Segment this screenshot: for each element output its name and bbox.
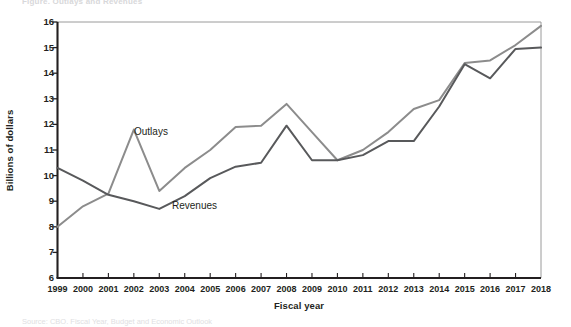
y-axis-tick-label: 12 [20, 119, 54, 129]
x-axis-title: Fiscal year [57, 300, 541, 311]
y-axis-tick-label: 10 [20, 171, 54, 181]
y-axis-tick-label: 11 [20, 145, 54, 155]
series-label-outlays: Outlays [134, 126, 168, 138]
x-axis-tick-labels: 1999200020012002200320042005200620072008… [0, 283, 571, 299]
series-line-revenues [58, 48, 542, 209]
y-axis-tick-label: 15 [20, 43, 54, 53]
series-line-outlays [58, 26, 542, 227]
clipped-source-note: Source: CBO. Fiscal Year, Budget and Eco… [22, 316, 442, 327]
y-axis-tick-labels: 678910111213141516 [16, 0, 54, 325]
y-axis-tick-label: 6 [20, 273, 54, 283]
y-axis-tick-label: 16 [20, 17, 54, 27]
y-axis-tick-label: 14 [20, 68, 54, 78]
y-axis-tick-label: 13 [20, 94, 54, 104]
y-axis-tick-label: 8 [20, 222, 54, 232]
series-label-revenues: Revenues [172, 200, 217, 212]
x-axis-tick-label: 2018 [521, 283, 561, 295]
y-axis-tick-label: 9 [20, 196, 54, 206]
y-axis-tick-label: 7 [20, 247, 54, 257]
clipped-figure-title: Figure. Outlays and Revenues [22, 0, 442, 7]
